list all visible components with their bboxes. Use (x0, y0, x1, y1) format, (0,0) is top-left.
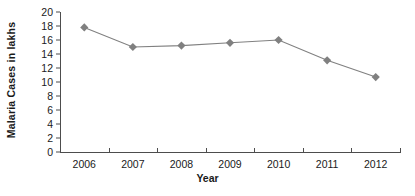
x-axis-tick-mark (351, 148, 352, 153)
plot-area (0, 0, 415, 196)
x-axis-tick-mark (60, 148, 61, 153)
x-axis-tick-label: 2011 (316, 158, 339, 170)
x-axis-tick-mark (157, 148, 158, 153)
y-axis-tick-label: 2 (47, 132, 53, 144)
data-point-marker (323, 56, 331, 64)
x-axis-tick-label: 2007 (121, 158, 144, 170)
series-line (84, 27, 375, 77)
data-point-marker (80, 23, 88, 31)
x-axis-tick-label: 2010 (267, 158, 290, 170)
y-axis-tick-label: 8 (47, 90, 53, 102)
data-point-marker (372, 73, 380, 81)
y-axis-tick-label: 14 (41, 48, 53, 60)
x-axis-line (60, 152, 400, 153)
x-axis-tick-label: 2006 (73, 158, 96, 170)
y-axis-tick-label: 4 (47, 118, 53, 130)
x-axis-tick-mark (254, 148, 255, 153)
x-axis-tick-mark (206, 148, 207, 153)
y-axis-title-text: Malaria Cases in lakhs (5, 22, 17, 138)
y-axis-tick-label: 10 (41, 76, 53, 88)
y-axis-line (60, 12, 61, 153)
y-axis-tick-label: 20 (41, 6, 53, 18)
x-axis-title: Year (0, 172, 415, 184)
x-axis-tick-label: 2012 (364, 158, 387, 170)
y-axis-tick-labels: 02468101214161820 (22, 0, 56, 160)
y-axis-title: Malaria Cases in lakhs (0, 0, 22, 160)
data-point-marker (226, 39, 234, 47)
y-axis-tick-label: 16 (41, 34, 53, 46)
x-axis-tick-label: 2008 (170, 158, 193, 170)
y-axis-tick-label: 0 (47, 146, 53, 158)
data-point-marker (274, 36, 282, 44)
line-chart: Malaria Cases in lakhs 02468101214161820… (0, 0, 415, 196)
data-point-marker (177, 42, 185, 50)
data-point-marker (129, 43, 137, 51)
x-axis-tick-mark (109, 148, 110, 153)
x-axis-tick-mark (303, 148, 304, 153)
y-axis-tick-label: 12 (41, 62, 53, 74)
x-axis-tick-label: 2009 (218, 158, 241, 170)
y-axis-tick-label: 6 (47, 104, 53, 116)
x-axis-tick-mark (400, 148, 401, 153)
y-axis-tick-label: 18 (41, 20, 53, 32)
